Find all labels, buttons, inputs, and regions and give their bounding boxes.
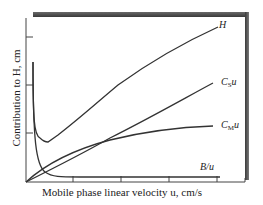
x-axis-label: Mobile phase linear velocity u, cm/s — [26, 186, 218, 198]
y-axis-label: Contribution to H, cm — [10, 28, 22, 168]
label-CSu: CSu — [221, 76, 237, 89]
label-Bu: B/u — [200, 161, 214, 172]
plot-area — [26, 17, 245, 182]
chart-plot — [0, 0, 263, 205]
label-H: H — [219, 19, 226, 30]
label-CMu: CMu — [221, 119, 239, 132]
